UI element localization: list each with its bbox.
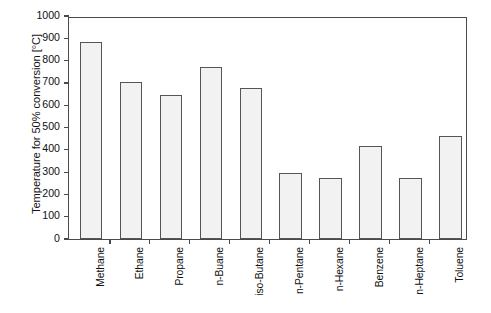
y-tick-mark xyxy=(64,194,69,195)
y-tick-mark xyxy=(64,15,69,16)
plot-area: 01002003004005006007008009001000 xyxy=(68,17,467,240)
y-tick-label: 600 xyxy=(20,98,60,110)
x-tick-label: n-Buane xyxy=(214,247,225,286)
y-tick-mark xyxy=(64,238,69,239)
x-tick-mark xyxy=(269,239,270,244)
y-tick-mark xyxy=(64,60,69,61)
y-tick-mark xyxy=(64,38,69,39)
x-tick-label: Propane xyxy=(174,247,185,286)
y-tick-label: 0 xyxy=(20,232,60,244)
x-tick-label: Toluene xyxy=(454,247,465,283)
x-tick-label: n-Hexane xyxy=(334,247,345,291)
bar xyxy=(319,178,342,239)
y-tick-label: 100 xyxy=(20,209,60,221)
x-tick-label: n-Heptane xyxy=(414,247,425,295)
x-tick-label: Methane xyxy=(95,247,106,287)
y-tick-mark xyxy=(64,82,69,83)
y-tick-label: 800 xyxy=(20,53,60,65)
x-tick-mark xyxy=(309,239,310,244)
y-tick-label: 500 xyxy=(20,120,60,132)
bar xyxy=(399,178,422,239)
bar xyxy=(240,88,263,239)
y-tick-mark xyxy=(64,149,69,150)
y-tick-label: 900 xyxy=(20,31,60,43)
x-tick-label: Ethane xyxy=(134,247,145,279)
x-tick-label: iso-Butane xyxy=(254,247,265,296)
y-tick-label: 200 xyxy=(20,187,60,199)
x-tick-label: Benzene xyxy=(374,247,385,287)
x-tick-mark xyxy=(109,239,110,244)
bar xyxy=(200,67,223,239)
y-tick-label: 400 xyxy=(20,142,60,154)
bar-chart-figure: Temperature for 50% conversion [°C] 0100… xyxy=(0,0,491,313)
y-tick-mark xyxy=(64,127,69,128)
x-tick-label: n-Pentane xyxy=(294,247,305,294)
x-tick-mark xyxy=(349,239,350,244)
bar xyxy=(120,82,143,239)
bar xyxy=(279,173,302,239)
y-tick-label: 1000 xyxy=(20,9,60,21)
bar xyxy=(160,95,183,240)
x-tick-mark xyxy=(149,239,150,244)
x-tick-mark xyxy=(429,239,430,244)
y-tick-mark xyxy=(64,172,69,173)
x-tick-mark xyxy=(389,239,390,244)
bar xyxy=(359,146,382,239)
y-tick-mark xyxy=(64,105,69,106)
x-tick-mark xyxy=(189,239,190,244)
y-tick-mark xyxy=(64,216,69,217)
x-tick-mark xyxy=(229,239,230,244)
bar xyxy=(439,136,462,239)
y-tick-label: 700 xyxy=(20,75,60,87)
y-tick-label: 300 xyxy=(20,165,60,177)
bar xyxy=(80,42,103,239)
